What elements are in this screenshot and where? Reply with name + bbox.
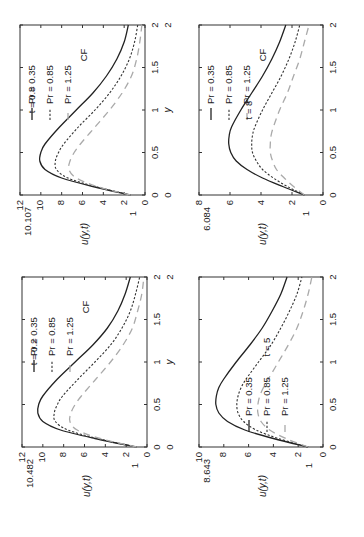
y-tick-label: 6 bbox=[242, 452, 253, 457]
chart-panel-bottom-right: 00.511.5202468101u(y,t)8.643Pr = 0.35Pr … bbox=[193, 274, 339, 497]
time-label: t = 0.2 bbox=[28, 339, 39, 366]
x-tick-label: 0.5 bbox=[327, 398, 338, 411]
y-tick-label: 8 bbox=[193, 200, 204, 205]
figure-canvas: 00.511.5202y0246810121u(y,t)10.107Pr = 0… bbox=[0, 0, 364, 537]
legend-label: Pr = 1.25 bbox=[62, 65, 73, 104]
legend-label: Pr = 1.25 bbox=[64, 317, 75, 356]
y-axis-label: u(y,t) bbox=[79, 223, 90, 245]
y-tick-label: 4 bbox=[255, 200, 266, 205]
x-tick-label: 1.5 bbox=[149, 61, 160, 74]
series-solid-line bbox=[216, 277, 308, 447]
x-tick-label: 2 bbox=[149, 22, 160, 27]
x-tick-label-outer: 0 bbox=[162, 192, 173, 197]
x-axis-label: y bbox=[162, 107, 173, 114]
x-tick-label: 0 bbox=[327, 444, 338, 449]
y-tick-label: 0 bbox=[317, 200, 328, 205]
y-tick-label: 0 bbox=[139, 200, 150, 205]
y-axis-label: u(y,t) bbox=[81, 475, 92, 497]
y-tick-label: 6 bbox=[76, 200, 87, 205]
legend-label: Pr = 0.85 bbox=[46, 317, 57, 356]
legend-label: Pr = 1.25 bbox=[241, 65, 252, 104]
series-dotted-line bbox=[54, 277, 140, 447]
legend-label: Pr = 0.85 bbox=[223, 65, 234, 104]
y-tick-label-extra: 1 bbox=[300, 211, 311, 216]
y-tick-label-extra: 1 bbox=[127, 211, 138, 216]
y-tick-label: 6 bbox=[78, 452, 89, 457]
y-tick-label: 2 bbox=[120, 452, 131, 457]
legend-cf-label: CF bbox=[80, 300, 91, 313]
chart-panel-bottom-left: 00.511.5202y0246810121u(y,t)10.482Pr = 0… bbox=[16, 274, 176, 497]
x-tick-label: 0.5 bbox=[151, 398, 162, 411]
x-tick-label: 1 bbox=[151, 359, 162, 364]
y-axis-label: u(y,t) bbox=[257, 223, 268, 245]
chart-panel-top-right: 00.511.52024681u(y,t)6.084Pr = 0.35Pr = … bbox=[193, 22, 339, 245]
time-label: t = 5 bbox=[261, 338, 272, 357]
x-tick-label-outer: 0 bbox=[164, 444, 175, 449]
y-tick-label: 4 bbox=[267, 452, 278, 457]
y-tick-label-extra: 1 bbox=[303, 463, 314, 468]
y-tick-label: 0 bbox=[141, 452, 152, 457]
peak-value-label: 6.084 bbox=[201, 207, 212, 231]
x-tick-label-outer: 2 bbox=[162, 22, 173, 27]
y-tick-label: 4 bbox=[97, 200, 108, 205]
legend-label: Pr = 0.85 bbox=[261, 377, 272, 416]
series-dashed-gray-line bbox=[258, 277, 312, 447]
time-label: t = 0.8 bbox=[26, 87, 37, 114]
y-tick-label: 10 bbox=[36, 452, 47, 463]
peak-value-label: 10.107 bbox=[22, 207, 33, 236]
x-tick-label: 0.5 bbox=[327, 146, 338, 159]
legend-label: Pr = 0.85 bbox=[44, 65, 55, 104]
x-tick-label: 1.5 bbox=[327, 313, 338, 326]
x-tick-label: 1 bbox=[327, 107, 338, 112]
x-tick-label: 2 bbox=[151, 274, 162, 279]
y-axis-label: u(y,t) bbox=[257, 475, 268, 497]
legend-cf-label: CF bbox=[78, 48, 89, 61]
series-dotted-line bbox=[55, 25, 138, 195]
legend-label: Pr = 0.35 bbox=[243, 377, 254, 416]
x-tick-label: 1 bbox=[149, 107, 160, 112]
x-tick-label: 0 bbox=[327, 192, 338, 197]
x-tick-label: 0 bbox=[149, 192, 160, 197]
legend-label: Pr = 0.35 bbox=[205, 65, 216, 104]
x-tick-label-outer: 2 bbox=[164, 274, 175, 279]
y-tick-label: 4 bbox=[99, 452, 110, 457]
y-tick-label: 0 bbox=[317, 452, 328, 457]
legend-label: Pr = 1.25 bbox=[279, 377, 290, 416]
y-tick-label: 2 bbox=[292, 452, 303, 457]
y-tick-label: 8 bbox=[55, 200, 66, 205]
y-tick-label: 8 bbox=[57, 452, 68, 457]
x-tick-label: 2 bbox=[327, 274, 338, 279]
peak-value-label: 8.643 bbox=[201, 459, 212, 483]
x-tick-label: 1.5 bbox=[151, 313, 162, 326]
x-tick-label: 2 bbox=[327, 22, 338, 27]
y-tick-label: 2 bbox=[286, 200, 297, 205]
y-tick-label: 8 bbox=[217, 452, 228, 457]
chart-panel-top-left: 00.511.5202y0246810121u(y,t)10.107Pr = 0… bbox=[14, 22, 174, 245]
series-dotted-line bbox=[237, 277, 308, 447]
x-tick-label: 0.5 bbox=[149, 146, 160, 159]
peak-value-label: 10.482 bbox=[24, 459, 35, 488]
y-tick-label-extra: 1 bbox=[129, 463, 140, 468]
legend-cf-label: CF bbox=[257, 48, 268, 61]
y-tick-label: 10 bbox=[34, 200, 45, 211]
x-tick-label: 1.5 bbox=[327, 61, 338, 74]
y-tick-label: 2 bbox=[118, 200, 129, 205]
x-axis-label: y bbox=[164, 359, 175, 366]
x-tick-label: 1 bbox=[327, 359, 338, 364]
x-tick-label: 0 bbox=[151, 444, 162, 449]
y-tick-label: 6 bbox=[224, 200, 235, 205]
time-label: t = 8 bbox=[243, 101, 254, 120]
